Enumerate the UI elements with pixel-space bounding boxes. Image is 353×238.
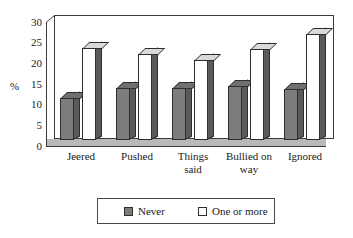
bar-side-face [95,42,102,140]
y-tick-label: 0 [18,141,42,152]
bar-group [60,15,102,140]
x-tick-label-line: way [214,163,284,176]
bar-never [172,82,192,140]
legend-swatch-one-or-more-icon [198,207,207,216]
bar-one-or-more [82,42,102,140]
bar-one-or-more [250,43,270,140]
bar-front-face [284,89,298,140]
bar-one-or-more [306,28,326,140]
bar-side-face [319,27,326,140]
bar-side-face [263,42,270,140]
bar-chart: % 051015202530 JeeredPushedThingssaidBul… [0,0,353,238]
bar-one-or-more [138,48,158,140]
bar-never [228,80,248,140]
bar-never [116,82,136,140]
bars-layer [46,15,334,147]
y-tick-label: 10 [18,99,42,110]
bar-front-face [60,98,74,140]
y-tick-label: 5 [18,120,42,131]
bar-side-face [129,82,136,140]
bar-front-face [228,86,242,140]
bar-front-face [194,60,208,140]
bar-one-or-more [194,54,214,140]
legend-item[interactable]: Never [124,204,165,218]
bar-side-face [297,82,304,140]
bar-group [284,15,326,140]
x-tick-label: Ignored [270,150,340,163]
bar-never [60,92,80,140]
bar-side-face [151,48,158,140]
bar-front-face [250,49,264,140]
bar-front-face [82,48,96,140]
bar-group [228,15,270,140]
x-tick-label-line: Ignored [270,150,340,163]
bar-front-face [306,34,320,140]
legend-item[interactable]: One or more [198,204,268,218]
bar-side-face [185,82,192,140]
legend-swatch-never-icon [124,207,133,216]
bar-side-face [207,54,214,140]
bar-front-face [172,88,186,140]
bar-never [284,83,304,140]
bar-side-face [241,80,248,140]
bar-front-face [116,88,130,140]
y-tick-label: 15 [18,79,42,90]
chart-legend: NeverOne or more [97,198,275,224]
legend-label: Never [138,204,165,218]
y-axis-ticks: 051015202530 [12,15,42,146]
legend-label: One or more [212,204,268,218]
bar-group [172,15,214,140]
y-tick-label: 20 [18,58,42,69]
bar-front-face [138,54,152,140]
x-axis-labels: JeeredPushedThingssaidBullied onwayIgnor… [46,150,334,190]
bar-group [116,15,158,140]
y-tick-label: 30 [18,17,42,28]
y-tick-label: 25 [18,37,42,48]
